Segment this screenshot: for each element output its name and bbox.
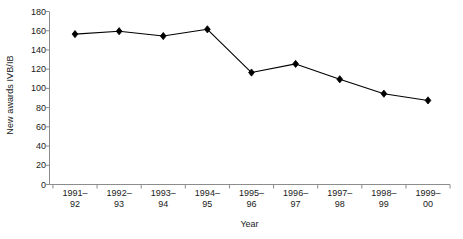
axis-lines [49,12,450,185]
y-tick-label: 20 [20,161,46,170]
y-axis-tick-labels: 020406080100120140160180 [14,0,46,239]
y-tick-label: 120 [20,65,46,74]
x-tick-label-line: 1999– [399,188,457,199]
y-tick-label: 60 [20,123,46,132]
y-axis-ticks [46,12,50,185]
data-point-markers [72,26,431,104]
y-tick-label: 80 [20,104,46,113]
y-tick-label: 160 [20,27,46,36]
x-tick-label: 1999–00 [399,188,457,210]
y-tick-label: 0 [20,181,46,190]
y-tick-label: 140 [20,46,46,55]
y-tick-label: 100 [20,84,46,93]
series-line [75,29,428,100]
x-tick-label-line: 00 [399,199,457,210]
x-axis-title: Year [49,218,450,230]
plot-svg [49,12,450,185]
line-chart: New awards IVB/IB 0204060801001201401601… [0,0,463,239]
y-tick-label: 40 [20,142,46,151]
y-tick-label: 180 [20,8,46,17]
plot-area [49,12,450,185]
x-axis-tick-labels: 1991–921992–931993–941994–951995–961996–… [49,188,450,218]
